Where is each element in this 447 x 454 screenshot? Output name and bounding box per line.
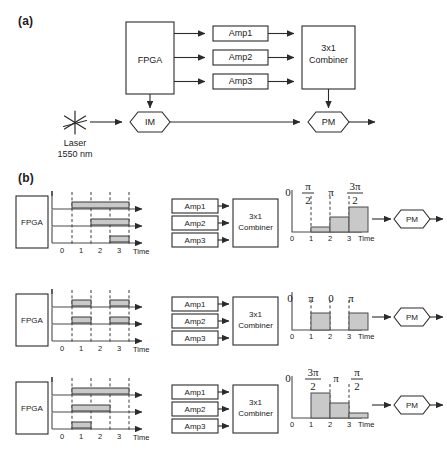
svg-text:2: 2 xyxy=(310,380,316,392)
panel-a-diagram: FPGA Amp1 Amp2 Amp3 3x1 Combiner Laser 1… xyxy=(57,22,375,159)
im-label-a: IM xyxy=(145,117,155,127)
figure-canvas: FPGA Amp1 Amp2 Amp3 3x1 Combiner Laser 1… xyxy=(0,0,447,454)
phase-label-3-r2: π xyxy=(348,292,354,304)
combiner-label-line1-a: 3x1 xyxy=(321,43,336,53)
amp1-label-a: Amp1 xyxy=(229,28,253,38)
combiner-line1-r3: 3x1 xyxy=(249,398,262,407)
combiner-label-line2-a: Combiner xyxy=(309,55,348,65)
amp2-label-a: Amp2 xyxy=(229,52,253,62)
amp1-label-r3: Amp1 xyxy=(185,388,206,397)
pulse-amp3-r3 xyxy=(72,422,91,428)
laser-star-icon xyxy=(64,111,87,134)
phase-label-2-r3: π xyxy=(333,372,339,384)
time-tick-1-r1: 1 xyxy=(79,246,83,255)
svg-text:π: π xyxy=(354,366,360,378)
phase-label-1-r1: π 2 xyxy=(302,180,314,206)
pulse-amp2-r1 xyxy=(91,219,129,225)
svg-text:2: 2 xyxy=(305,194,311,206)
phase-time-label-r1: Time xyxy=(358,234,374,243)
pm-label-r3: PM xyxy=(406,401,418,410)
fpga-label-r3: FPGA xyxy=(21,404,43,413)
amp1-label-r2: Amp1 xyxy=(185,300,206,309)
time-tick-0-r1: 0 xyxy=(60,246,64,255)
time-tick-3-r3: 3 xyxy=(117,432,121,441)
svg-text:π: π xyxy=(305,180,311,192)
phase-tick-2-r3: 2 xyxy=(328,420,332,429)
phase-tick-2-r1: 2 xyxy=(328,234,332,243)
phase-bar-1-r2 xyxy=(311,313,330,330)
phase-time-label-r2: Time xyxy=(358,332,374,341)
combiner-line1-r2: 3x1 xyxy=(249,310,262,319)
phase-label-1-r3: 3π 2 xyxy=(305,366,321,392)
time-tick-3-r1: 3 xyxy=(117,246,121,255)
amp3-label-r3: Amp3 xyxy=(185,422,206,431)
amp1-label-r1: Amp1 xyxy=(185,202,206,211)
combiner-line1-r1: 3x1 xyxy=(249,212,262,221)
phase-label-3-r3: π 2 xyxy=(351,366,363,392)
phase-label-0-r3: 0 xyxy=(285,372,291,384)
svg-text:2: 2 xyxy=(352,194,358,206)
pulse-amp1-r1 xyxy=(72,202,129,208)
panel-b-row-3: FPGA 0 1 2 3 Time Amp1 Amp2 Amp3 3x1 Com… xyxy=(16,366,443,442)
timing-axis-amp3-r2 xyxy=(52,325,142,342)
phase-tick-1-r3: 1 xyxy=(309,420,313,429)
pulse-amp1-b-r2 xyxy=(110,300,129,306)
phase-tick-3-r1: 3 xyxy=(347,234,351,243)
amp3-label-a: Amp3 xyxy=(229,76,253,86)
svg-text:3π: 3π xyxy=(307,366,319,378)
phase-label-0-r1: 0 xyxy=(285,186,291,198)
phase-bar-2-r1 xyxy=(330,217,349,232)
phase-tick-2-r2: 2 xyxy=(328,332,332,341)
phase-tick-1-r1: 1 xyxy=(309,234,313,243)
time-tick-2-r3: 2 xyxy=(98,432,102,441)
pulse-amp1-r3 xyxy=(72,388,129,394)
phase-tick-3-r3: 3 xyxy=(347,420,351,429)
laser-label-line1: Laser xyxy=(64,138,87,148)
phase-tick-0-r1: 0 xyxy=(290,234,294,243)
amp3-label-r1: Amp3 xyxy=(185,236,206,245)
phase-bar-3-r2 xyxy=(349,313,368,330)
phase-time-label-r3: Time xyxy=(358,420,374,429)
time-axis-label-r3: Time xyxy=(133,433,149,442)
panel-b-row-2: FPGA 0 1 2 3 Time Amp1 Amp2 Amp3 3x1 Com… xyxy=(16,289,443,354)
phase-tick-3-r2: 3 xyxy=(347,332,351,341)
time-tick-1-r3: 1 xyxy=(79,432,83,441)
panel-b-row-1: FPGA 0 1 2 3 Time Amp1 Amp2 Amp3 3x1 Com… xyxy=(16,180,443,256)
pulse-amp2-b-r2 xyxy=(110,317,129,323)
pulse-amp2-r3 xyxy=(72,405,110,411)
time-axis-label-r2: Time xyxy=(133,345,149,354)
time-tick-3-r2: 3 xyxy=(117,344,121,353)
timing-axis-amp3-r3 xyxy=(52,413,142,430)
time-tick-1-r2: 1 xyxy=(79,344,83,353)
fpga-label-a: FPGA xyxy=(138,55,163,65)
svg-text:3π: 3π xyxy=(349,180,361,192)
amp2-label-r1: Amp2 xyxy=(185,219,206,228)
phase-tick-1-r2: 1 xyxy=(309,332,313,341)
phase-bar-1-r3 xyxy=(311,393,330,418)
laser-label-line2: 1550 nm xyxy=(57,149,92,159)
phase-label-1-r2: π xyxy=(308,292,314,304)
time-axis-label-r1: Time xyxy=(133,247,149,256)
pm-label-r1: PM xyxy=(406,215,418,224)
phase-bar-3-r1 xyxy=(349,207,368,232)
combiner-line2-r2: Combiner xyxy=(238,321,273,330)
time-tick-0-r3: 0 xyxy=(60,432,64,441)
pm-label-a: PM xyxy=(322,117,336,127)
phase-label-2-r1: π xyxy=(328,186,334,198)
fpga-label-r1: FPGA xyxy=(21,218,43,227)
pulse-amp2-a-r2 xyxy=(72,317,91,323)
time-tick-0-r2: 0 xyxy=(60,344,64,353)
amp3-label-r2: Amp3 xyxy=(185,334,206,343)
phase-bar-3-r3 xyxy=(349,413,368,418)
fpga-label-r2: FPGA xyxy=(21,316,43,325)
combiner-line2-r1: Combiner xyxy=(238,223,273,232)
pm-label-r2: PM xyxy=(406,313,418,322)
pulse-amp3-r1 xyxy=(110,236,129,242)
pulse-amp1-a-r2 xyxy=(72,300,91,306)
phase-bar-2-r3 xyxy=(330,403,349,418)
amp2-label-r3: Amp2 xyxy=(185,405,206,414)
time-tick-2-r2: 2 xyxy=(98,344,102,353)
combiner-line2-r3: Combiner xyxy=(238,409,273,418)
svg-text:2: 2 xyxy=(354,380,360,392)
phase-tick-0-r3: 0 xyxy=(290,420,294,429)
